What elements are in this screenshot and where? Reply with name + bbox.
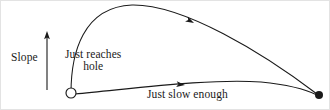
slope-axis-arrow: [44, 31, 50, 90]
upper-curve-label-line1: Just reaches: [65, 48, 121, 60]
slope-axis-label: Slope: [11, 51, 38, 63]
upper-curve-label-line2: hole: [65, 60, 121, 72]
upper-curve-label: Just reaches hole: [65, 48, 121, 72]
trajectory-diagram: Slope Just reaches hole Just slow enough: [0, 0, 330, 110]
start-open-circle-marker: [66, 88, 76, 98]
lower-curve-label: Just slow enough: [147, 88, 228, 100]
end-filled-dot-marker: [315, 91, 323, 99]
